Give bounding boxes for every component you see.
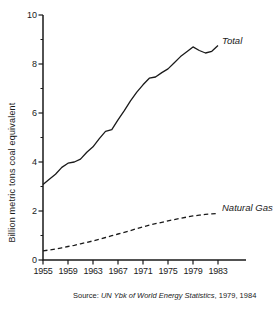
source-note-suffix: , 1979, 1984 — [215, 291, 257, 300]
y-tick-label-4: 4 — [0, 157, 37, 167]
x-tick-label-1975: 1975 — [155, 266, 181, 276]
source-note-citation: UN Ybk of World Energy Statistics — [101, 291, 215, 300]
series-line-total — [43, 46, 218, 185]
series-label-natural-gas: Natural Gas — [222, 202, 273, 213]
y-tick-label-8: 8 — [0, 59, 37, 69]
y-tick-label-6: 6 — [0, 108, 37, 118]
x-tick-label-1983: 1983 — [205, 266, 231, 276]
y-tick-label-0: 0 — [0, 255, 37, 265]
x-tick-label-1967: 1967 — [105, 266, 131, 276]
plot-area — [0, 0, 280, 311]
x-tick-label-1959: 1959 — [55, 266, 81, 276]
x-tick-label-1955: 1955 — [30, 266, 56, 276]
x-tick-label-1963: 1963 — [80, 266, 106, 276]
x-tick-label-1979: 1979 — [180, 266, 206, 276]
y-tick-label-2: 2 — [0, 206, 37, 216]
x-tick-label-1971: 1971 — [130, 266, 156, 276]
source-note: Source: UN Ybk of World Energy Statistic… — [73, 291, 256, 300]
series-label-total: Total — [222, 35, 242, 46]
energy-line-chart-figure: Billion metric tons coal equivalent 0246… — [0, 0, 280, 311]
y-tick-label-10: 10 — [0, 10, 37, 20]
source-note-prefix: Source: — [73, 291, 101, 300]
series-line-natural-gas — [43, 213, 218, 251]
axis-lines — [43, 15, 246, 260]
